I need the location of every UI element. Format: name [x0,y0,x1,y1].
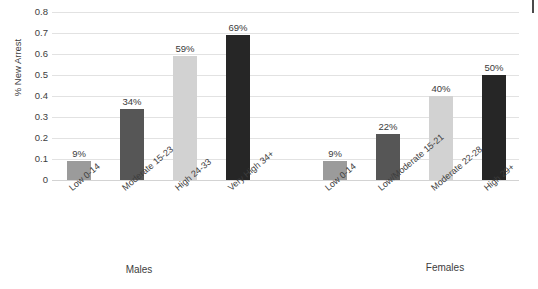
bar-chart: % New Arrest 0.80.70.60.50.40.30.20.10 9… [0,0,538,289]
bar [226,35,250,180]
bar-value-label: 9% [59,148,99,159]
bar-value-label: 69% [218,22,258,33]
y-tick-label: 0.7 [2,28,48,38]
y-tick-label: 0.6 [2,49,48,59]
bar-value-label: 59% [165,43,205,54]
bar-value-label: 50% [474,62,514,73]
bar-value-label: 40% [421,83,461,94]
y-tick-label: 0 [2,175,48,185]
gridline [52,54,519,55]
y-tick-label: 0.5 [2,70,48,80]
gridline [52,12,519,13]
y-tick-label: 0.1 [2,154,48,164]
bar-value-label: 22% [368,121,408,132]
bar-value-label: 34% [112,96,152,107]
gridline [52,33,519,34]
page-edge-artifact [532,0,534,13]
gridline [52,75,519,76]
bar-value-label: 9% [315,148,355,159]
y-tick-label: 0.8 [2,7,48,17]
y-axis-ticks: 0.80.70.60.50.40.30.20.10 [0,12,48,180]
bar [482,75,506,180]
y-tick-label: 0.2 [2,133,48,143]
plot-area: 9%34%59%69%9%22%40%50% [52,12,519,180]
group-label-females: Females [325,262,538,273]
group-label-males: Males [19,264,259,275]
y-tick-label: 0.4 [2,91,48,101]
bar [173,56,197,180]
y-tick-label: 0.3 [2,112,48,122]
